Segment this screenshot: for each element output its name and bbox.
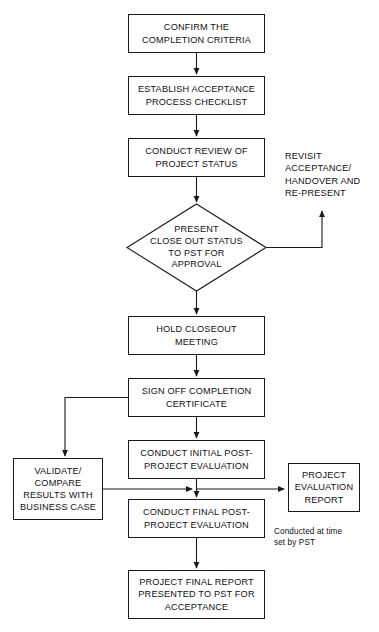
node-conduct-final-evaluation[interactable]: CONDUCT FINAL POST- PROJECT EVALUATION <box>128 499 265 538</box>
label-revisit-acceptance: REVISIT ACCEPTANCE/ HANDOVER AND RE-PRES… <box>285 150 360 200</box>
connector-decision-to-revisit <box>266 211 322 248</box>
node-project-final-report[interactable]: PROJECT FINAL REPORT PRESENTED TO PST FO… <box>128 570 265 619</box>
node-sign-off-completion[interactable]: SIGN OFF COMPLETION CERTIFICATE <box>128 378 265 417</box>
connector-signoff-to-validate <box>65 398 128 457</box>
label-conducted-at-time-note: Conducted at time set by PST <box>274 527 342 548</box>
node-hold-closeout-meeting[interactable]: HOLD CLOSEOUT MEETING <box>128 316 265 355</box>
node-validate-compare[interactable]: VALIDATE/ COMPARE RESULTS WITH BUSINESS … <box>13 458 103 520</box>
node-conduct-initial-evaluation[interactable]: CONDUCT INITIAL POST- PROJECT EVALUATION <box>128 440 265 479</box>
node-project-evaluation-report[interactable]: PROJECT EVALUATION REPORT <box>288 463 360 512</box>
node-confirm-criteria[interactable]: CONFIRM THE COMPLETION CRITERIA <box>128 14 265 53</box>
node-conduct-review[interactable]: CONDUCT REVIEW OF PROJECT STATUS <box>128 138 265 177</box>
node-establish-checklist[interactable]: ESTABLISH ACCEPTANCE PROCESS CHECKLIST <box>128 76 265 115</box>
node-present-close-out-decision[interactable]: PRESENT CLOSE OUT STATUS TO PST FOR APPR… <box>127 204 266 291</box>
